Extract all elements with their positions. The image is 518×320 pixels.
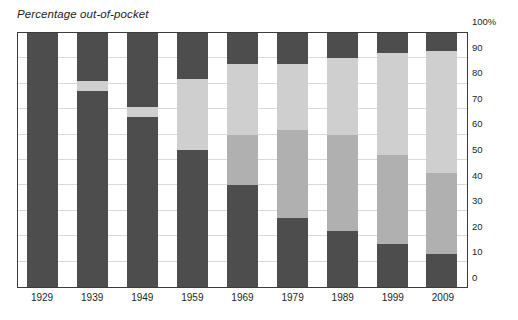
bars-layer <box>18 33 467 287</box>
y-axis-tick: 60 <box>472 118 483 129</box>
bar-1929[interactable] <box>27 33 58 287</box>
bar-segment-medium <box>327 135 358 232</box>
y-axis-tick: 0 <box>472 272 477 283</box>
bar-1959[interactable] <box>177 33 208 287</box>
x-axis-tick-1979: 1979 <box>277 292 308 312</box>
bar-segment-dark <box>377 244 408 287</box>
bar-segment-medium <box>277 130 308 219</box>
chart-title: Percentage out-of-pocket <box>17 8 149 20</box>
y-axis-tick: 90 <box>472 41 483 52</box>
bar-segment-dark <box>127 33 158 107</box>
bar-segment-dark <box>27 33 58 287</box>
x-axis-tick-2009: 2009 <box>427 292 458 312</box>
bar-segment-medium <box>377 155 408 244</box>
bar-segment-light <box>127 107 158 117</box>
bar-2009[interactable] <box>426 33 457 287</box>
y-axis-tick: 70 <box>472 92 483 103</box>
x-axis-tick-1989: 1989 <box>327 292 358 312</box>
bar-segment-dark <box>327 231 358 287</box>
bar-segment-light <box>227 64 258 135</box>
y-axis-tick: 10 <box>472 246 483 257</box>
stacked-bar-chart: Percentage out-of-pocket 010203040506070… <box>0 0 518 320</box>
bar-segment-dark <box>426 254 457 287</box>
bar-segment-light <box>377 53 408 155</box>
bar-1949[interactable] <box>127 33 158 287</box>
bar-segment-medium <box>227 135 258 186</box>
bar-segment-light <box>277 64 308 130</box>
bar-segment-light <box>177 79 208 150</box>
y-axis-tick: 80 <box>472 67 483 78</box>
x-axis-tick-1959: 1959 <box>177 292 208 312</box>
y-axis-tick: 50 <box>472 144 483 155</box>
bar-1969[interactable] <box>227 33 258 287</box>
bar-segment-dark <box>227 33 258 63</box>
x-axis-tick-1939: 1939 <box>77 292 108 312</box>
bar-segment-dark <box>77 33 108 81</box>
bar-segment-dark <box>177 150 208 287</box>
bar-segment-dark <box>377 33 408 53</box>
bar-segment-dark <box>327 33 358 58</box>
y-axis-tick: 100% <box>472 16 496 27</box>
bar-segment-dark <box>77 91 108 287</box>
bar-segment-light <box>426 51 457 173</box>
x-axis: 192919391949195919691979198919992009 <box>17 292 468 312</box>
bar-1989[interactable] <box>327 33 358 287</box>
bar-segment-dark <box>127 117 158 287</box>
bar-segment-dark <box>426 33 457 51</box>
x-axis-tick-1999: 1999 <box>377 292 408 312</box>
bar-segment-dark <box>277 33 308 63</box>
bar-segment-light <box>77 81 108 91</box>
bar-segment-dark <box>177 33 208 79</box>
y-axis: 0102030405060708090100% <box>472 32 516 288</box>
bar-segment-dark <box>227 185 258 287</box>
bar-1939[interactable] <box>77 33 108 287</box>
bar-segment-medium <box>426 173 457 254</box>
bar-1999[interactable] <box>377 33 408 287</box>
plot-area <box>17 32 468 288</box>
y-axis-tick: 30 <box>472 195 483 206</box>
x-axis-tick-1969: 1969 <box>227 292 258 312</box>
x-axis-tick-1949: 1949 <box>127 292 158 312</box>
y-axis-tick: 40 <box>472 169 483 180</box>
bar-1979[interactable] <box>277 33 308 287</box>
y-axis-tick: 20 <box>472 220 483 231</box>
bar-segment-dark <box>277 218 308 287</box>
bar-segment-light <box>327 58 358 134</box>
x-axis-tick-1929: 1929 <box>27 292 58 312</box>
